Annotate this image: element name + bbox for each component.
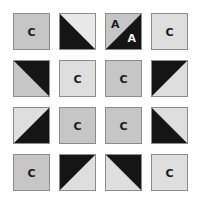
tile-r1-c4: C [151, 13, 188, 50]
tile-r1-c1: C [13, 13, 50, 50]
diagonal-split-icon [60, 14, 95, 49]
tile-letter: C [14, 26, 49, 37]
tile-letter: C [60, 120, 95, 131]
tile-letter: C [152, 167, 187, 178]
tile-r4-c3 [105, 154, 142, 191]
tile-letter: C [106, 120, 141, 131]
tile-r1-c2 [59, 13, 96, 50]
diagonal-split-icon [60, 155, 95, 190]
tile-r2-c2: C [59, 60, 96, 97]
diagonal-split-icon [106, 155, 141, 190]
tile-letter-light: A [111, 19, 120, 30]
tile-r2-c4 [151, 60, 188, 97]
tile-grid: C A A C C C [13, 13, 188, 191]
tile-r3-c4 [151, 107, 188, 144]
tile-letter: C [60, 73, 95, 84]
tile-r3-c3: C [105, 107, 142, 144]
tile-r4-c2 [59, 154, 96, 191]
diagonal-split-icon [152, 61, 187, 96]
tile-letter: C [152, 26, 187, 37]
tile-letter-dark: A [127, 33, 136, 44]
tile-letter: C [14, 167, 49, 178]
tile-r4-c4: C [151, 154, 188, 191]
tile-r2-c1 [13, 60, 50, 97]
tile-r2-c3: C [105, 60, 142, 97]
diagonal-split-icon [152, 108, 187, 143]
tile-r1-c3: A A [105, 13, 142, 50]
tile-letter: C [106, 73, 141, 84]
tile-r3-c2: C [59, 107, 96, 144]
tile-r3-c1 [13, 107, 50, 144]
diagonal-split-icon [14, 108, 49, 143]
tile-r4-c1: C [13, 154, 50, 191]
diagonal-split-icon [14, 61, 49, 96]
